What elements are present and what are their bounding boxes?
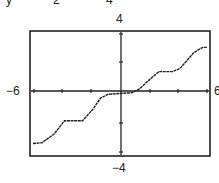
xmin-label: −6: [6, 85, 20, 97]
ymax-label: 4: [116, 13, 123, 25]
xmax-label: 6: [214, 85, 219, 97]
graph-plot: [0, 0, 219, 183]
ymin-label: −4: [112, 162, 126, 174]
